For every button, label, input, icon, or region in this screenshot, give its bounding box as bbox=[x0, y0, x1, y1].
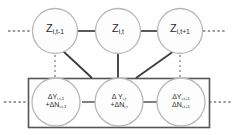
node-dy-t-minus-1 bbox=[32, 78, 80, 126]
node-dy-t-plus-1 bbox=[157, 78, 205, 126]
node-dy-t bbox=[95, 78, 143, 126]
node-z-t-plus-1 bbox=[158, 9, 203, 54]
graphical-model-diagram: Zi,t-1 Zi,t Zi,t+1 ΔYi,t-1 +ΔNi,t-1 Δ Yi… bbox=[0, 0, 234, 135]
diagram-canvas bbox=[0, 0, 234, 135]
edge-z-next-to-dy-curr bbox=[136, 51, 174, 78]
edge-z-prev-to-dy-curr bbox=[63, 51, 92, 78]
node-z-t-minus-1 bbox=[33, 9, 78, 54]
node-z-t bbox=[96, 9, 141, 54]
